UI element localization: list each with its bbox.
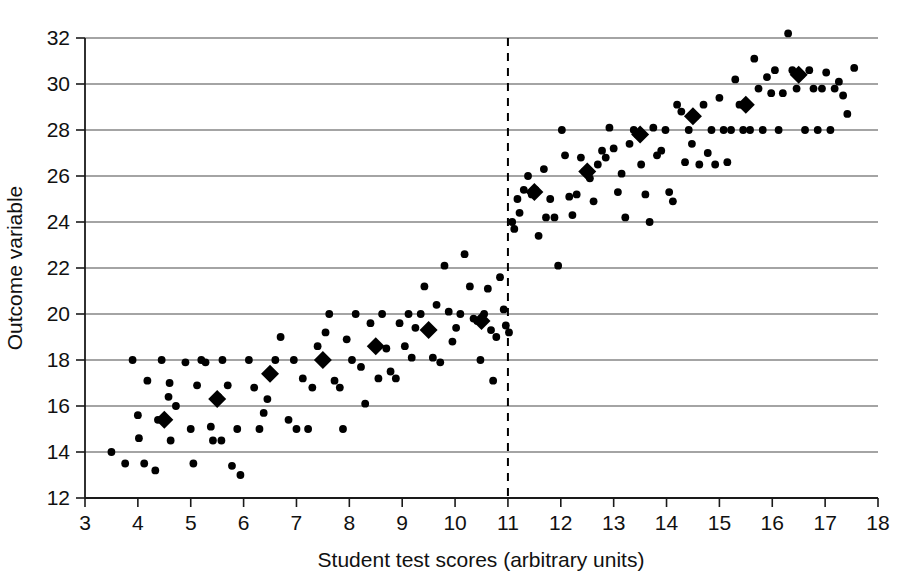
- data-point: [510, 225, 518, 233]
- y-tick-label-30: 30: [47, 72, 70, 95]
- data-point: [700, 101, 708, 109]
- y-tick-labels-group: 1214161820222426283032: [47, 26, 71, 509]
- data-point: [618, 170, 626, 178]
- data-point: [167, 437, 175, 445]
- data-point: [621, 214, 629, 222]
- data-point: [839, 92, 847, 100]
- data-point: [542, 214, 550, 222]
- data-point: [677, 108, 685, 116]
- data-point: [219, 356, 227, 364]
- data-point: [417, 310, 425, 318]
- data-point: [793, 85, 801, 93]
- data-point: [256, 425, 264, 433]
- data-point: [681, 158, 689, 166]
- data-point: [767, 89, 775, 97]
- data-point: [237, 471, 245, 479]
- data-point: [665, 188, 673, 196]
- data-point: [134, 411, 142, 419]
- data-point: [805, 66, 813, 74]
- bin-mean-marker: [155, 411, 173, 429]
- data-point: [392, 375, 400, 383]
- data-point: [343, 335, 351, 343]
- data-point: [831, 85, 839, 93]
- x-tick-label-9: 9: [396, 511, 408, 534]
- data-point: [573, 191, 581, 199]
- data-point: [614, 188, 622, 196]
- data-point: [626, 140, 634, 148]
- bin-mean-marker: [525, 183, 543, 201]
- data-point: [165, 393, 173, 401]
- data-point: [835, 78, 843, 86]
- data-point: [336, 384, 344, 392]
- data-point: [720, 126, 728, 134]
- data-point: [484, 285, 492, 293]
- data-point: [801, 126, 809, 134]
- data-point: [193, 381, 201, 389]
- data-point: [514, 195, 522, 203]
- data-point: [151, 467, 159, 475]
- data-point: [569, 211, 577, 219]
- data-point: [739, 126, 747, 134]
- data-point: [500, 306, 508, 314]
- data-point: [408, 354, 416, 362]
- y-tick-label-20: 20: [47, 302, 70, 325]
- data-point: [492, 333, 500, 341]
- data-point: [401, 342, 409, 350]
- data-point: [456, 310, 464, 318]
- data-point: [750, 55, 758, 63]
- y-tick-label-32: 32: [47, 26, 70, 49]
- data-point: [688, 140, 696, 148]
- data-point: [357, 363, 365, 371]
- data-point: [135, 434, 143, 442]
- y-tick-label-28: 28: [47, 118, 70, 141]
- data-point: [731, 76, 739, 84]
- data-point: [669, 197, 677, 205]
- data-point: [277, 333, 285, 341]
- data-point: [637, 161, 645, 169]
- data-point: [441, 262, 449, 270]
- data-point: [143, 377, 151, 385]
- data-point: [433, 301, 441, 309]
- data-point: [314, 342, 322, 350]
- data-point: [649, 124, 657, 132]
- data-point: [304, 425, 312, 433]
- data-point: [850, 64, 858, 72]
- y-tick-marks-group: [76, 38, 85, 498]
- data-point: [108, 448, 116, 456]
- data-point: [421, 283, 429, 291]
- data-point: [412, 324, 420, 332]
- data-point: [602, 154, 610, 162]
- data-point: [245, 356, 253, 364]
- bin-mean-marker: [261, 365, 279, 383]
- data-point: [461, 250, 469, 258]
- x-tick-label-14: 14: [655, 511, 679, 534]
- x-tick-label-13: 13: [602, 511, 625, 534]
- data-point: [339, 425, 347, 433]
- data-point: [189, 460, 197, 468]
- y-tick-label-14: 14: [47, 440, 71, 463]
- x-tick-marks-group: [85, 498, 878, 507]
- data-point: [727, 126, 735, 134]
- data-point: [293, 425, 301, 433]
- data-point: [496, 273, 504, 281]
- x-tick-label-16: 16: [761, 511, 784, 534]
- data-point: [405, 310, 413, 318]
- data-point: [755, 85, 763, 93]
- x-tick-label-7: 7: [291, 511, 303, 534]
- data-point: [172, 402, 180, 410]
- data-point: [606, 124, 614, 132]
- data-point: [516, 209, 524, 217]
- x-tick-label-5: 5: [185, 511, 197, 534]
- data-point: [361, 400, 369, 408]
- data-point: [396, 319, 404, 327]
- data-point: [610, 145, 618, 153]
- data-point: [784, 30, 792, 38]
- data-point: [290, 356, 298, 364]
- data-point: [263, 395, 271, 403]
- data-point: [814, 126, 822, 134]
- bin-mean-marker: [737, 96, 755, 114]
- bin-mean-marker: [208, 390, 226, 408]
- data-point: [565, 193, 573, 201]
- data-point: [260, 409, 268, 417]
- data-point: [561, 151, 569, 159]
